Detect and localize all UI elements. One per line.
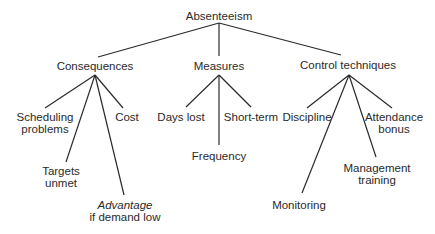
node-management-line2: training [343,174,410,186]
node-advantage-line1: Advantage [90,199,161,211]
node-scheduling-problems: Scheduling problems [17,111,74,135]
node-management-training: Management training [343,162,410,186]
node-targets-unmet: Targets unmet [42,165,80,189]
node-attendance-bonus: Attendance bonus [365,111,423,135]
node-attendance-line2: bonus [365,123,423,135]
node-cost: Cost [115,111,139,123]
edge-root-consequences [98,23,219,57]
edge-control-attendance [349,75,392,108]
node-advantage-line2: if demand low [90,211,161,223]
node-scheduling-line1: Scheduling [17,111,74,123]
node-measures: Measures [194,60,245,72]
edge-measures-shortterm [219,75,251,107]
node-monitoring: Monitoring [272,199,326,211]
node-scheduling-line2: problems [17,123,74,135]
node-advantage: Advantage if demand low [90,199,161,223]
node-targets-line1: Targets [42,165,80,177]
node-discipline: Discipline [282,111,331,123]
node-attendance-line1: Attendance [365,111,423,123]
edge-root-control [219,23,341,55]
node-frequency: Frequency [192,150,246,162]
node-targets-line2: unmet [42,177,80,189]
edge-measures-days [186,75,219,107]
edge-consequences-scheduling [45,75,95,108]
node-control-techniques: Control techniques [300,59,396,71]
node-absenteeism: Absenteeism [186,10,252,22]
edge-control-monitoring [302,75,349,193]
node-consequences: Consequences [57,60,134,72]
node-days-lost: Days lost [157,111,204,123]
node-short-term: Short-term [224,111,278,123]
node-management-line1: Management [343,162,410,174]
